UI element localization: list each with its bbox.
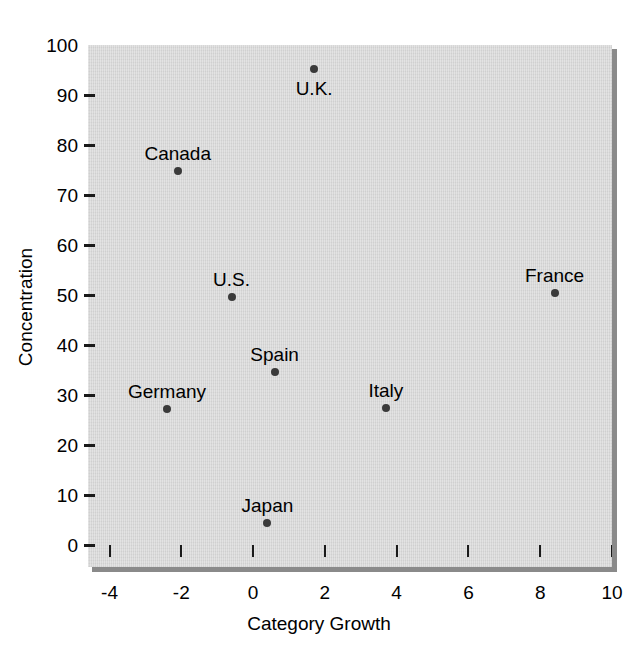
y-tick-label: 20	[0, 436, 78, 455]
plot-texture	[88, 45, 612, 567]
y-tick-mark	[84, 294, 95, 297]
x-tick-mark	[252, 545, 254, 557]
y-tick-label: 0	[0, 536, 78, 555]
data-point	[228, 293, 236, 301]
data-point-label: France	[525, 266, 584, 285]
x-tick-mark	[324, 545, 326, 557]
x-tick-label: 2	[285, 583, 365, 602]
y-tick-mark	[84, 144, 95, 147]
scatter-chart-figure: U.K.CanadaU.S.FranceSpainGermanyItalyJap…	[0, 0, 638, 646]
y-tick-label: 100	[0, 36, 78, 55]
plot-area: U.K.CanadaU.S.FranceSpainGermanyItalyJap…	[88, 45, 612, 567]
y-tick-label: 60	[0, 236, 78, 255]
data-point-label: Canada	[144, 144, 211, 163]
y-tick-mark	[84, 344, 95, 347]
x-tick-label: 10	[572, 583, 638, 602]
plot-shadow-bottom	[92, 567, 617, 572]
data-point	[174, 167, 182, 175]
y-tick-mark	[84, 194, 95, 197]
y-tick-label: 70	[0, 186, 78, 205]
y-tick-label: 80	[0, 136, 78, 155]
y-tick-mark	[84, 244, 95, 247]
y-tick-label: 40	[0, 336, 78, 355]
y-tick-label: 30	[0, 386, 78, 405]
x-tick-label: 8	[500, 583, 580, 602]
data-point	[271, 368, 279, 376]
x-tick-mark	[539, 545, 541, 557]
x-tick-mark	[396, 545, 398, 557]
x-tick-label: -2	[141, 583, 221, 602]
y-tick-mark	[84, 494, 95, 497]
data-point-label: Germany	[128, 382, 206, 401]
y-tick-mark	[84, 444, 95, 447]
x-tick-mark	[467, 545, 469, 557]
y-tick-label: 50	[0, 286, 78, 305]
y-tick-label: 90	[0, 86, 78, 105]
data-point-label: Spain	[250, 345, 299, 364]
data-point	[163, 405, 171, 413]
plot-shadow-right	[612, 49, 617, 571]
data-point-label: Japan	[242, 496, 294, 515]
data-point	[382, 404, 390, 412]
y-tick-label: 10	[0, 486, 78, 505]
x-tick-label: -4	[70, 583, 150, 602]
y-tick-mark	[84, 394, 95, 397]
data-point-label: Italy	[368, 381, 403, 400]
data-point	[551, 289, 559, 297]
data-point-label: U.S.	[213, 270, 250, 289]
x-tick-mark	[180, 545, 182, 557]
y-axis-title: Concentration	[15, 197, 37, 417]
y-tick-mark	[84, 94, 95, 97]
x-axis-title: Category Growth	[0, 613, 638, 635]
y-tick-mark	[84, 544, 95, 547]
data-point	[263, 519, 271, 527]
x-tick-label: 0	[213, 583, 293, 602]
x-tick-label: 4	[357, 583, 437, 602]
data-point-label: U.K.	[296, 79, 333, 98]
data-point	[310, 65, 318, 73]
x-tick-mark	[109, 545, 111, 557]
x-tick-label: 6	[428, 583, 508, 602]
